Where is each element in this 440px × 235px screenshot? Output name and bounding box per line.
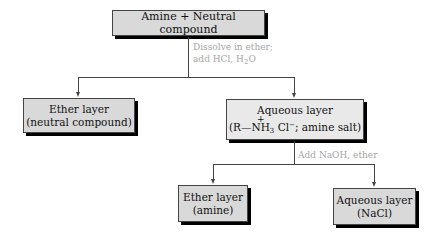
step1-line1: Dissolve in ether; — [193, 41, 273, 53]
step1-note: Dissolve in ether; add HCl, H2O — [193, 41, 273, 68]
ether-layer-neutral-line1: Ether layer — [49, 103, 109, 116]
connector-to-aqueous-2 — [374, 164, 375, 183]
connector-to-ether-2 — [213, 164, 214, 180]
connector-split-1 — [78, 77, 295, 78]
aqueous-layer-salt-line1: Aqueous layer — [257, 104, 333, 117]
step2-note: Add NaOH, ether — [298, 149, 377, 161]
ether-layer-neutral-line2: (neutral compound) — [26, 116, 132, 129]
aqueous-layer-salt-line2: (R—+NH3 Cl−; amine salt) — [229, 119, 361, 138]
aqueous-layer-nacl-line1: Aqueous layer — [337, 194, 413, 207]
connector-to-ether-1 — [78, 77, 79, 93]
arrow-aqueous-1-icon — [292, 93, 296, 98]
connector-aqueous-down — [294, 141, 295, 165]
aqueous-layer-salt-node: Aqueous layer (R—+NH3 Cl−; amine salt) — [226, 99, 364, 140]
start-node-label: Amine + Neutral compound — [113, 10, 264, 36]
ether-layer-amine-node: Ether layer (amine) — [178, 185, 248, 222]
arrow-aqueous-2-icon — [372, 182, 376, 187]
arrow-ether-2-icon — [211, 179, 215, 184]
start-node: Amine + Neutral compound — [112, 10, 265, 36]
aqueous-layer-nacl-node: Aqueous layer (NaCl) — [333, 188, 416, 225]
ether-layer-neutral-node: Ether layer (neutral compound) — [23, 98, 135, 133]
ether-layer-amine-line2: (amine) — [193, 204, 234, 217]
connector-start-down — [188, 37, 189, 78]
step1-line2: add HCl, H2O — [193, 53, 273, 68]
arrow-ether-1-icon — [76, 92, 80, 97]
aqueous-layer-nacl-line2: (NaCl) — [357, 207, 392, 220]
ether-layer-amine-line1: Ether layer — [183, 191, 243, 204]
connector-split-2 — [213, 164, 375, 165]
connector-to-aqueous-1 — [294, 77, 295, 94]
